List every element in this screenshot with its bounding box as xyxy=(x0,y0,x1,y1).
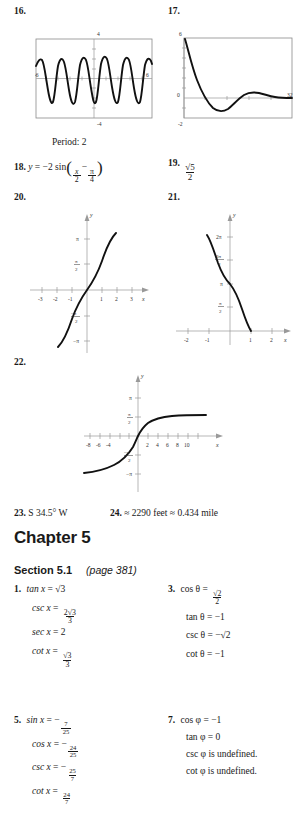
answer-rhs: 0 xyxy=(216,732,221,742)
exercise-16-label: 16. xyxy=(14,6,26,16)
svg-text:x: x xyxy=(215,442,219,448)
svg-text:2: 2 xyxy=(218,262,221,267)
answer-line: cot φ is undefined. xyxy=(186,763,305,780)
answer-line: tan θ = −1 xyxy=(186,606,305,628)
answer-line: 5. sin x = − 7 25 xyxy=(14,712,154,736)
exercise-22-label: 22. xyxy=(14,357,26,367)
svg-text:2π: 2π xyxy=(216,234,222,240)
answer-lhs: tan θ xyxy=(186,612,205,622)
paren-close: ) xyxy=(97,158,103,177)
svg-text:-3: -3 xyxy=(38,296,43,302)
answer-line: csc x = 2√3 3 xyxy=(32,597,154,625)
answer-sign: − xyxy=(54,715,59,725)
exercise-21-label: 21. xyxy=(168,192,180,202)
exercise-18-fraction-1: x2 xyxy=(73,168,81,185)
exercise-24-label: 24. xyxy=(110,508,122,518)
answer-group-7: 7. cos φ = −1 tan φ = 0 csc φ is undefin… xyxy=(168,712,305,780)
exercise-18-minus: − xyxy=(82,162,87,172)
answer-rhs: is undefined. xyxy=(208,766,257,776)
exercise-21-graph: x y -2 -1 1 2 2π 3π 2 π π 2 xyxy=(162,205,297,355)
svg-text:-2: -2 xyxy=(184,337,189,343)
answer-line: 7. cos φ = −1 xyxy=(168,712,305,729)
exercise-18-eq: = xyxy=(35,162,40,172)
answer-5-label: 5. xyxy=(14,715,21,725)
answer-group-3: 3. cos θ = √2 2 tan θ = −1 csc θ = −√2 c… xyxy=(168,582,305,665)
answer-line: 3. cos θ = √2 2 xyxy=(168,582,305,606)
svg-text:3: 3 xyxy=(130,296,133,302)
answer-lhs: tan φ xyxy=(186,732,205,742)
exercise-18-coefficient: −2 sin xyxy=(43,162,67,172)
svg-text:2: 2 xyxy=(128,458,131,463)
answer-rhs: is undefined. xyxy=(208,749,257,759)
exercise-24: 24. ≈ 2290 feet ≈ 0.434 mile xyxy=(110,508,218,518)
exercise-16-period: Period: 2 xyxy=(52,137,87,147)
answer-eq: = xyxy=(53,646,58,656)
answer-eq: = xyxy=(47,715,52,725)
svg-text:y: y xyxy=(140,373,144,379)
section-title: Section 5.1 xyxy=(14,564,72,576)
svg-text:6: 6 xyxy=(179,31,182,37)
exercise-20-graph: x y -3 -2 -1 1 2 3 π π 2 −π 2 −π xyxy=(22,205,152,355)
answer-line: cot θ = −1 xyxy=(186,643,305,665)
answer-rhs: −√2 xyxy=(215,628,230,643)
svg-text:y: y xyxy=(232,212,236,218)
svg-text:4: 4 xyxy=(97,31,100,37)
svg-text:2: 2 xyxy=(115,296,118,302)
svg-text:1: 1 xyxy=(100,296,103,302)
answer-rhs: √3 xyxy=(55,582,65,597)
svg-text:2: 2 xyxy=(128,420,131,425)
svg-text:2: 2 xyxy=(75,319,78,324)
answer-eq: = xyxy=(54,739,59,749)
svg-text:2: 2 xyxy=(270,337,273,343)
answer-lhs: csc θ xyxy=(186,630,205,640)
svg-text:π: π xyxy=(220,281,223,287)
svg-text:-6: -6 xyxy=(96,442,101,448)
answer-fraction: 24 25 xyxy=(68,745,79,760)
answer-sign: − xyxy=(61,739,66,749)
svg-text:6: 6 xyxy=(166,442,169,448)
exercise-18: 18. y = −2 sin(x2−π4) xyxy=(14,158,103,184)
answer-lhs: sec x xyxy=(32,627,51,637)
exercise-18-label: 18. xyxy=(14,162,26,172)
section-heading: Section 5.1 (page 381) xyxy=(14,560,137,578)
answer-eq: = xyxy=(202,584,207,594)
svg-text:π: π xyxy=(219,301,222,306)
answer-eq: = xyxy=(48,584,53,594)
answer-eq: = xyxy=(53,762,58,772)
svg-text:10: 10 xyxy=(184,442,190,448)
chapter-title: Chapter 5 xyxy=(14,528,91,548)
answer-lhs: csc φ xyxy=(186,749,206,759)
answer-fraction: 2√3 3 xyxy=(62,609,78,626)
exercise-24-value: ≈ 2290 feet ≈ 0.434 mile xyxy=(124,508,218,518)
exercise-23-label: 23. xyxy=(14,508,26,518)
answer-line: tan φ = 0 xyxy=(186,729,305,746)
answer-line: cot x = 24 7 xyxy=(32,783,154,807)
answer-sign: − xyxy=(61,762,66,772)
exercise-18-y: y xyxy=(28,162,32,172)
svg-text:-2: -2 xyxy=(178,121,183,127)
svg-text:y: y xyxy=(89,212,93,218)
svg-text:π: π xyxy=(76,236,79,242)
svg-text:1: 1 xyxy=(249,337,252,343)
answer-line: cos x = − 24 25 xyxy=(32,736,154,760)
answer-fraction: √3 3 xyxy=(61,652,73,669)
exercise-20-label: 20. xyxy=(14,192,26,202)
answer-eq: = xyxy=(207,649,212,659)
answer-eq: = xyxy=(207,630,212,640)
svg-text:6: 6 xyxy=(146,72,149,78)
exercise-18-fraction-2: π4 xyxy=(88,168,96,185)
answer-eq: = xyxy=(207,612,212,622)
exercise-19: 19. √5 2 xyxy=(168,158,198,182)
svg-text:π: π xyxy=(75,259,78,264)
exercise-16-graph: 4 -4 6 -6 xyxy=(35,22,153,127)
answer-eq: = xyxy=(208,732,213,742)
svg-text:π: π xyxy=(128,412,131,417)
svg-text:-2: -2 xyxy=(53,296,58,302)
answer-lhs: cot φ xyxy=(186,766,205,776)
answer-line: csc φ is undefined. xyxy=(186,746,305,763)
svg-text:−π: −π xyxy=(124,450,130,455)
exercise-19-fraction: √5 2 xyxy=(183,163,196,182)
answer-line: csc x = − 25 7 xyxy=(32,759,154,783)
answer-lhs: cos θ xyxy=(181,584,201,594)
svg-text:-6: -6 xyxy=(35,72,39,78)
